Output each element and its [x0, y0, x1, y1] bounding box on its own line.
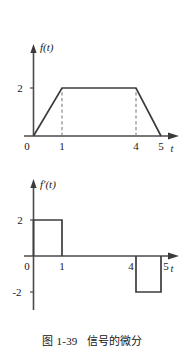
derivative-pulse-negative: [136, 256, 161, 292]
figure-caption-number: 图 1-39: [42, 335, 77, 347]
y-axis-arrow-icon-top: [30, 44, 36, 53]
x-label-4-bottom: 4: [128, 260, 134, 272]
chart-derivative: f'(t) 2 -2 0 1 4 5 t: [0, 168, 185, 328]
x-label-1-top: 1: [59, 140, 65, 152]
chart-signal-svg: f(t) 2 0 1 4 5 t: [0, 0, 185, 170]
x-label-5-bottom: 5: [163, 260, 169, 272]
x-label-1-bottom: 1: [59, 260, 65, 272]
chart-signal: f(t) 2 0 1 4 5 t: [0, 0, 185, 170]
derivative-pulse-positive: [34, 220, 63, 256]
function-label-bottom: f'(t): [40, 178, 56, 191]
x-axis-label-top: t: [171, 143, 175, 154]
x-label-4-top: 4: [133, 140, 139, 152]
x-axis-arrow-icon-bottom: [168, 253, 179, 260]
x-axis-arrow-icon-top: [168, 133, 179, 140]
function-label-top: f(t): [40, 41, 54, 54]
x-axis-label-bottom: t: [171, 263, 175, 274]
figure-caption-title: 信号的微分: [87, 335, 143, 347]
x-label-0-top: 0: [24, 140, 30, 152]
y-label-neg2-bottom: -2: [12, 286, 21, 298]
figure-container: f(t) 2 0 1 4 5 t f'(t) 2: [0, 0, 185, 354]
y-label-2-bottom: 2: [17, 214, 23, 226]
x-label-5-top: 5: [158, 140, 164, 152]
x-label-0-bottom: 0: [24, 260, 30, 272]
signal-waveform: [34, 88, 162, 136]
y-label-2-top: 2: [17, 82, 23, 94]
y-axis-arrow-icon-bottom: [30, 179, 36, 188]
figure-caption: 图 1-39信号的微分: [0, 332, 185, 348]
chart-derivative-svg: f'(t) 2 -2 0 1 4 5 t: [0, 168, 185, 328]
